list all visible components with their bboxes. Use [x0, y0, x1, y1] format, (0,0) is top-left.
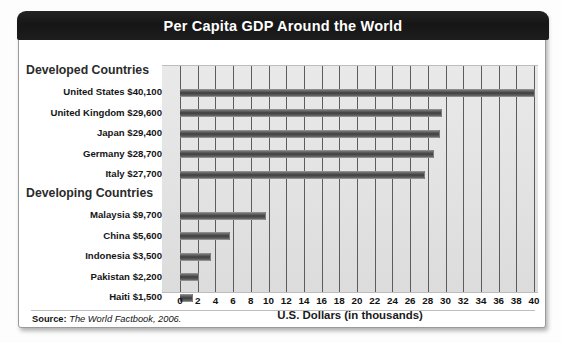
bar-malaysia: [180, 212, 266, 220]
x-axis-tick-labels: 0246810121416182022242628303234363840: [162, 293, 538, 309]
footer-divider: [31, 310, 535, 311]
x-tick-26: 26: [405, 295, 416, 306]
bar-label-italy: Italy $27,700: [19, 168, 162, 179]
category-label-column: Developed CountriesUnited States $40,100…: [19, 43, 162, 293]
gridline-24: [392, 66, 393, 292]
x-tick-6: 6: [230, 295, 235, 306]
gridline-26: [410, 66, 411, 292]
chart-title: Per Capita GDP Around the World: [164, 18, 403, 34]
bar-italy: [180, 171, 425, 179]
bar-label-pakistan: Pakistan $2,200: [19, 271, 162, 282]
x-tick-36: 36: [493, 295, 504, 306]
chart-title-bar: Per Capita GDP Around the World: [17, 11, 549, 40]
bar-label-malaysia: Malaysia $9,700: [19, 209, 162, 220]
gridline-10: [269, 66, 270, 292]
x-tick-4: 4: [213, 295, 218, 306]
group-label: Developing Countries: [26, 187, 153, 200]
bar-label-united-kingdom: United Kingdom $29,600: [19, 107, 162, 118]
x-tick-40: 40: [529, 295, 540, 306]
gridline-34: [481, 66, 482, 292]
x-tick-2: 2: [195, 295, 200, 306]
x-tick-16: 16: [316, 295, 327, 306]
x-tick-28: 28: [422, 295, 433, 306]
x-tick-34: 34: [475, 295, 486, 306]
bar-united-kingdom: [180, 109, 442, 117]
bar-china: [180, 232, 230, 240]
bar-label-germany: Germany $28,700: [19, 148, 162, 159]
x-tick-22: 22: [369, 295, 380, 306]
gridline-20: [357, 66, 358, 292]
bar-label-haiti: Haiti $1,500: [19, 291, 162, 302]
x-tick-14: 14: [298, 295, 309, 306]
bar-indonesia: [180, 253, 211, 261]
bar-united-states: [180, 89, 535, 97]
source-prefix: Source:: [32, 314, 67, 324]
x-tick-0: 0: [177, 295, 182, 306]
gridline-22: [375, 66, 376, 292]
x-tick-8: 8: [248, 295, 253, 306]
bar-label-united-states: United States $40,100: [19, 86, 162, 97]
gridline-4: [215, 66, 216, 292]
x-tick-38: 38: [511, 295, 522, 306]
gridline-6: [233, 66, 234, 292]
gridline-28: [428, 66, 429, 292]
x-tick-30: 30: [440, 295, 451, 306]
gridline-12: [286, 66, 287, 292]
gridline-40: [534, 66, 535, 292]
gridline-30: [446, 66, 447, 292]
gridline-14: [304, 66, 305, 292]
x-tick-24: 24: [387, 295, 398, 306]
group-label: Developed Countries: [26, 64, 149, 77]
x-tick-18: 18: [334, 295, 345, 306]
source-citation: The World Factbook, 2006.: [69, 314, 181, 324]
chart-figure: Per Capita GDP Around the World Develope…: [0, 0, 561, 343]
bar-label-japan: Japan $29,400: [19, 127, 162, 138]
bar-japan: [180, 130, 440, 138]
gridline-16: [322, 66, 323, 292]
gridline-38: [516, 66, 517, 292]
bar-pakistan: [180, 273, 199, 281]
bar-germany: [180, 150, 434, 158]
x-tick-12: 12: [281, 295, 292, 306]
gridline-32: [463, 66, 464, 292]
gridline-36: [499, 66, 500, 292]
gridline-18: [339, 66, 340, 292]
chart-card: Per Capita GDP Around the World Develope…: [18, 13, 546, 328]
bar-label-china: China $5,600: [19, 230, 162, 241]
x-tick-32: 32: [458, 295, 469, 306]
gridline-8: [251, 66, 252, 292]
x-tick-20: 20: [352, 295, 363, 306]
plot-area: [162, 65, 538, 293]
bar-label-indonesia: Indonesia $3,500: [19, 250, 162, 261]
chart-body: Developed CountriesUnited States $40,100…: [19, 43, 545, 327]
source-note: Source: The World Factbook, 2006.: [32, 314, 181, 324]
x-tick-10: 10: [263, 295, 274, 306]
